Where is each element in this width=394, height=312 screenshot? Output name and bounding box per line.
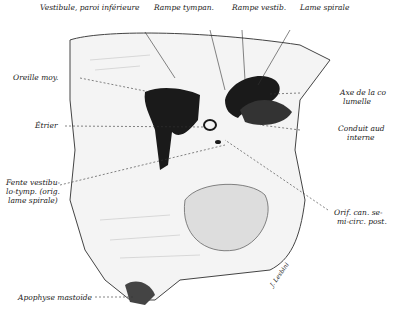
label-vestibule: Vestibule, paroi inférieure [40, 3, 140, 12]
label-conduit-auditif-1: Conduit aud [338, 124, 385, 133]
anatomical-drawing [0, 0, 394, 312]
label-fente-3: lame spirale) [8, 196, 58, 205]
label-oreille-moy: Oreille moy. [13, 73, 58, 82]
label-axe-columelle-1: Axe de la co [340, 88, 386, 97]
label-fente-1: Fente vestibu- [6, 178, 60, 187]
label-orif-1: Orif. can. se- [334, 208, 383, 217]
label-rampe-vestib: Rampe vestib. [232, 3, 286, 12]
label-lame-spirale: Lame spirale [300, 3, 349, 12]
label-axe-columelle-2: lumelle [343, 97, 371, 106]
label-apophyse-mastoide: Apophyse mastoïde [18, 293, 92, 302]
label-orif-2: mi-circ. post. [337, 217, 387, 226]
label-etrier: Étrier [35, 121, 58, 130]
label-rampe-tympan: Rampe tympan. [154, 3, 214, 12]
label-fente-2: lo-tymp. (orig. [6, 187, 60, 196]
label-conduit-auditif-2: interne [347, 133, 375, 142]
